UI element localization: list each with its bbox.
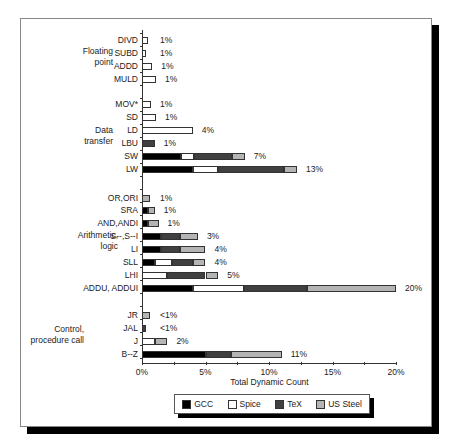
category-label: S--,S--I xyxy=(18,231,138,241)
bar-segment-us-steel xyxy=(148,207,154,214)
bar-segment-us-steel xyxy=(180,233,198,240)
bar-segment-us-steel xyxy=(307,285,396,292)
value-label: 1% xyxy=(160,193,172,203)
y-tick xyxy=(140,332,143,333)
bar-segment-us-steel xyxy=(180,246,205,253)
value-label: 1% xyxy=(165,74,177,84)
value-label: 13% xyxy=(306,164,323,174)
value-label: 7% xyxy=(254,151,266,161)
value-label: 1% xyxy=(164,205,176,215)
bar-segment-us-steel xyxy=(142,195,150,202)
y-tick xyxy=(140,85,143,86)
y-tick xyxy=(140,176,143,177)
x-tick-label: 20% xyxy=(376,367,416,377)
legend: GCC Spice TeX US Steel xyxy=(174,394,370,414)
category-label: LD xyxy=(18,125,138,135)
bar-segment-spice xyxy=(193,285,244,292)
category-label: SW xyxy=(18,151,138,161)
y-tick xyxy=(140,72,143,73)
category-label: SD xyxy=(18,112,138,122)
category-label: MULD xyxy=(18,74,138,84)
y-tick xyxy=(140,124,143,125)
bar-segment-gcc xyxy=(142,285,193,292)
bar-segment-us-steel xyxy=(284,166,297,173)
y-tick xyxy=(140,137,143,138)
legend-item-spice: Spice xyxy=(228,399,261,409)
x-tick xyxy=(364,362,365,365)
value-label: 1% xyxy=(160,35,172,45)
bar-segment-gcc xyxy=(142,246,161,253)
y-tick xyxy=(140,345,143,346)
bar-segment-spice xyxy=(142,37,148,44)
legend-swatch-tex xyxy=(275,400,284,409)
category-label: JAL xyxy=(18,323,138,333)
legend-label: GCC xyxy=(194,399,213,409)
x-tick-label: 5% xyxy=(186,367,226,377)
x-tick-label: 10% xyxy=(249,367,289,377)
category-label: SUBD xyxy=(18,48,138,58)
legend-swatch-gcc xyxy=(182,400,191,409)
value-label: 3% xyxy=(207,231,219,241)
bar-segment-spice xyxy=(142,101,151,108)
bar-segment-us-steel xyxy=(232,153,245,160)
y-tick xyxy=(140,33,143,34)
bar-segment-us-steel xyxy=(142,312,150,319)
bar-segment-spice xyxy=(155,259,173,266)
bar-segment-tex xyxy=(161,233,180,240)
y-tick xyxy=(140,228,143,229)
x-tick xyxy=(174,362,175,365)
bar-segment-tex xyxy=(218,166,284,173)
bar-segment-tex xyxy=(142,325,146,332)
bar-segment-gcc xyxy=(142,166,193,173)
value-label: 5% xyxy=(227,270,239,280)
x-tick-label: 15% xyxy=(313,367,353,377)
value-label: 4% xyxy=(215,244,227,254)
legend-label: US Steel xyxy=(328,399,362,409)
x-tick xyxy=(142,362,143,365)
y-tick xyxy=(140,163,143,164)
y-tick xyxy=(140,215,143,216)
bar-segment-tex xyxy=(244,285,308,292)
value-label: 11% xyxy=(291,349,307,359)
value-label: <1% xyxy=(160,310,177,320)
value-label: 1% xyxy=(161,61,173,71)
bar-segment-gcc xyxy=(142,233,161,240)
category-label: SLL xyxy=(18,257,138,267)
y-tick xyxy=(140,202,143,203)
legend-item-tex: TeX xyxy=(275,399,302,409)
bar-segment-spice xyxy=(142,272,167,279)
y-tick xyxy=(140,267,143,268)
y-tick xyxy=(140,319,143,320)
category-label: LBU xyxy=(18,138,138,148)
x-tick xyxy=(396,362,397,365)
value-label: 1% xyxy=(160,99,172,109)
value-label: 2% xyxy=(176,336,188,346)
legend-swatch-spice xyxy=(228,400,237,409)
y-tick xyxy=(140,293,143,294)
category-label: DIVD xyxy=(18,35,138,45)
y-tick xyxy=(140,150,143,151)
value-label: <1% xyxy=(160,323,177,333)
x-tick xyxy=(206,362,207,365)
y-tick xyxy=(140,46,143,47)
category-label: MOV* xyxy=(18,99,138,109)
bar-segment-spice xyxy=(142,63,152,70)
legend-item-us-steel: US Steel xyxy=(316,399,362,409)
category-label: ADDD xyxy=(18,61,138,71)
bar-segment-gcc xyxy=(142,351,206,358)
y-tick xyxy=(140,358,143,359)
bar-segment-spice xyxy=(181,153,194,160)
x-tick xyxy=(301,362,302,365)
bar-segment-spice xyxy=(142,76,156,83)
category-label: OR,ORI xyxy=(18,193,138,203)
value-label: 1% xyxy=(165,112,177,122)
legend-item-gcc: GCC xyxy=(182,399,213,409)
category-label: JR xyxy=(18,310,138,320)
y-tick xyxy=(140,111,143,112)
category-label: SRA xyxy=(18,205,138,215)
bar-segment-spice xyxy=(142,338,155,345)
value-label: 1% xyxy=(160,48,172,58)
y-tick xyxy=(140,59,143,60)
legend-label: TeX xyxy=(287,399,302,409)
bar-segment-us-steel xyxy=(193,259,206,266)
